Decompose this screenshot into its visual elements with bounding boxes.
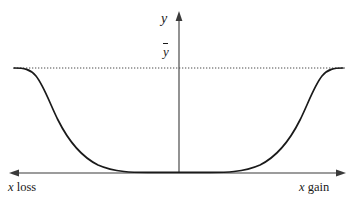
x-loss-word: loss [17,180,36,194]
x-axis-right-arrowhead [336,170,346,177]
value-function-figure: y y x loss x gain [0,0,360,206]
x-axis-left-arrowhead [9,170,19,177]
x-gain-label: x gain [299,181,329,194]
y-bar-label: y [163,43,169,58]
x-gain-word: gain [308,180,330,194]
y-axis [176,11,183,173]
plot-canvas [0,0,360,206]
y-axis-label: y [161,12,167,26]
x-gain-variable: x [299,180,305,194]
x-loss-variable: x [8,180,14,194]
y-bar-label-text: y [163,43,169,58]
y-axis-arrowhead [176,11,183,21]
x-loss-label: x loss [8,181,36,194]
